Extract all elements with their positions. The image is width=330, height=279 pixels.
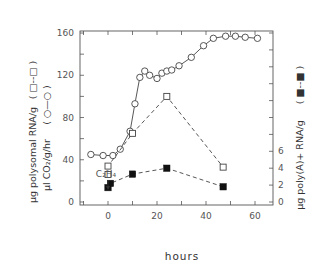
open-circle-marker — [254, 35, 260, 41]
polysomal-legend-symbol: ( □--□ ) — [27, 61, 38, 99]
series-line — [91, 36, 258, 155]
data-series — [88, 33, 261, 191]
y-right-tick-label: 2 — [278, 180, 284, 190]
left-axis-title-polysomal: µg polysomal RNA/g — [27, 107, 38, 203]
series-line — [108, 96, 223, 174]
y-right-tick-label: 0 — [278, 197, 284, 207]
open-circle-marker — [210, 35, 216, 41]
y-left-tick-label: 0 — [68, 197, 74, 207]
open-circle-marker — [232, 33, 238, 39]
left-axis-title-2: µl CO₂/g/hr ( ○—○ ) — [41, 85, 52, 191]
open-square-marker — [164, 93, 170, 99]
x-tick-label: 40 — [200, 211, 212, 221]
open-square-marker — [220, 164, 226, 170]
open-circle-marker — [188, 54, 194, 60]
x-tick-label: 0 — [105, 211, 111, 221]
right-axis-title-polya: µg poly(A)+ RNA/g — [294, 120, 305, 210]
co2-legend-symbol: ( ○—○ ) — [41, 85, 52, 125]
y-left-tick-label: 40 — [63, 155, 75, 165]
y-right-tick-label: 6 — [278, 146, 284, 156]
axis-ticks: 0204060040801201600246 — [57, 28, 284, 221]
filled-square-marker — [129, 171, 135, 177]
left-axis-title-co2: µl CO₂/g/hr — [41, 139, 52, 191]
chart: 0204060040801201600246 hours µg polysoma… — [0, 0, 330, 279]
filled-square-marker — [164, 165, 170, 171]
open-circle-marker — [132, 101, 138, 107]
polya-legend-symbol: ( ■--■ ) — [294, 66, 305, 104]
y-left-tick-label: 160 — [57, 28, 74, 38]
open-circle-marker — [88, 151, 94, 157]
open-circle-marker — [242, 34, 248, 40]
open-circle-marker — [100, 152, 106, 158]
open-circle-marker — [154, 75, 160, 81]
left-axis-title-1: µg polysomal RNA/g ( □--□ ) — [27, 61, 38, 203]
open-circle-marker — [200, 43, 206, 49]
open-circle-marker — [222, 33, 228, 39]
open-square-marker — [130, 130, 136, 136]
filled-square-marker — [220, 184, 226, 190]
y-left-tick-label: 120 — [57, 70, 74, 80]
x-tick-label: 20 — [151, 211, 163, 221]
x-tick-label: 60 — [249, 211, 261, 221]
open-circle-marker — [169, 67, 175, 73]
open-circle-marker — [137, 74, 143, 80]
y-left-tick-label: 80 — [63, 113, 75, 123]
right-axis-title: µg poly(A)+ RNA/g ( ■--■ ) — [294, 66, 305, 210]
open-circle-marker — [176, 63, 182, 69]
y-right-tick-label: 4 — [278, 163, 284, 173]
ethylene-annotation: C₂H₄ — [96, 169, 117, 179]
open-circle-marker — [146, 72, 152, 78]
x-axis-title: hours — [165, 250, 200, 262]
open-circle-marker — [110, 152, 116, 158]
